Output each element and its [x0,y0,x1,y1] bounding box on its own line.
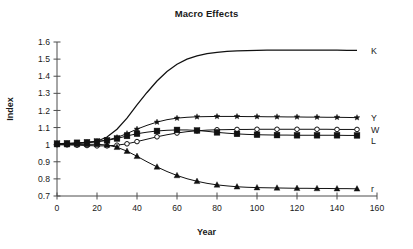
series-label-L: L [371,136,376,146]
data-marker [294,114,300,119]
y-tick-label: 0.8 [38,174,50,184]
data-marker [314,132,320,138]
data-marker [294,132,300,138]
x-tick-label: 100 [250,203,265,213]
data-marker [194,114,200,119]
x-tick-label: 40 [132,203,142,213]
data-marker [154,119,160,124]
x-axis: 020406080100120140160 [55,193,385,214]
data-marker [254,132,260,138]
data-marker [295,127,300,132]
x-tick-label: 0 [55,203,60,213]
series-label-K: K [371,46,377,56]
data-marker [214,129,220,135]
y-tick-label: 0.7 [38,191,50,201]
data-marker [234,113,240,118]
y-tick-label: 1.5 [38,54,50,64]
data-marker [275,127,280,132]
series-layer [54,50,360,191]
y-tick-label: 1 [45,140,50,150]
data-marker [354,133,360,139]
series-label-W: W [371,125,380,135]
data-marker [154,128,160,134]
data-marker [134,131,140,137]
x-tick-label: 80 [212,203,222,213]
data-marker [135,139,140,144]
data-marker [334,132,340,138]
data-marker [335,127,340,132]
data-marker [255,127,260,132]
y-tick-label: 1.3 [38,88,50,98]
y-tick-label: 0.9 [38,157,50,167]
data-marker [315,127,320,132]
data-marker [154,164,160,170]
data-marker [355,127,360,132]
y-tick-label: 1.6 [38,37,50,47]
data-marker [274,114,280,119]
series-labels: KYWLr [371,46,380,194]
plot-area: 0.70.80.911.11.21.31.41.51.6 02040608010… [0,0,413,249]
y-tick-label: 1.2 [38,106,50,116]
data-marker [134,153,140,159]
data-marker [194,128,200,134]
data-marker [234,131,240,137]
x-tick-label: 140 [330,203,345,213]
x-tick-label: 20 [92,203,102,213]
data-marker [124,133,130,139]
series-r [54,141,360,191]
data-marker [214,113,220,118]
data-marker [254,114,260,119]
data-marker [334,114,340,119]
data-marker [174,127,180,133]
series-label-r: r [371,184,374,194]
y-tick-label: 1.4 [38,71,50,81]
x-tick-label: 60 [172,203,182,213]
data-marker [274,132,280,138]
series-label-Y: Y [371,113,377,123]
data-marker [125,142,130,147]
data-marker [174,115,180,120]
data-marker [155,134,160,139]
data-marker [354,115,360,120]
data-marker [314,114,320,119]
chart-figure: Macro Effects Index Year 0.70.80.911.11.… [0,0,413,249]
series-line-r [57,144,357,188]
data-marker [114,136,120,142]
x-tick-label: 120 [290,203,305,213]
y-tick-label: 1.1 [38,123,50,133]
y-axis: 0.70.80.911.11.21.31.41.51.6 [38,37,60,201]
x-tick-label: 160 [370,203,385,213]
series-line-L [57,130,357,144]
